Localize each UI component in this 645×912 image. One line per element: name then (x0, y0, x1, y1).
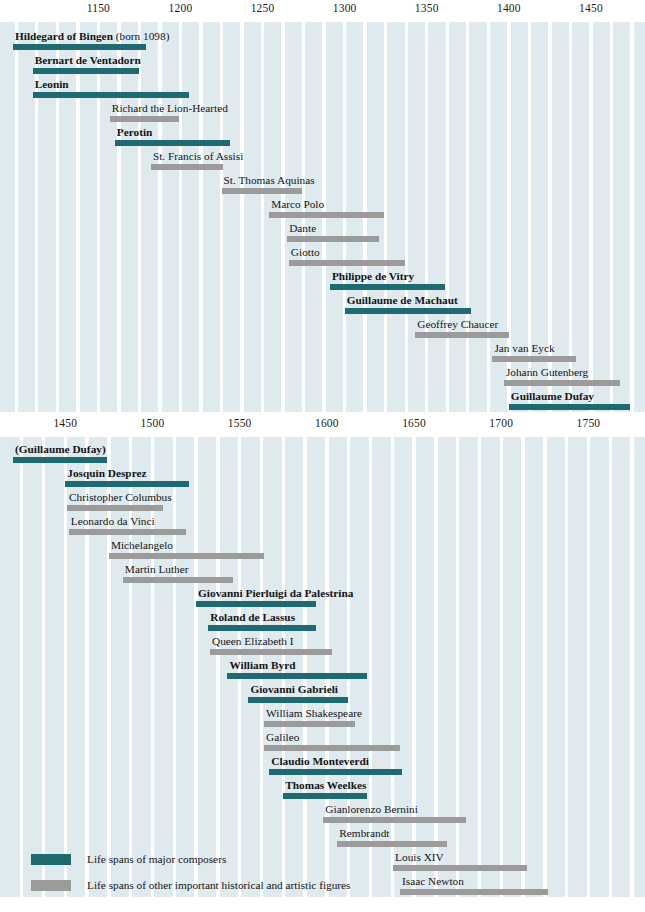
timeline-row-label: Christopher Columbus (69, 491, 172, 504)
timeline-row-label: Perotin (117, 126, 153, 139)
timeline-row[interactable]: Louis XIV (0, 851, 645, 875)
timeline-bar-figure[interactable] (110, 116, 179, 122)
axis-panel-1: 1150120012501300135014001450 (0, 0, 645, 22)
timeline-row[interactable]: Perotin (0, 126, 645, 150)
timeline-bar-figure[interactable] (337, 841, 447, 847)
timeline-bar-composer[interactable] (65, 481, 189, 487)
timeline-row[interactable]: Roland de Lassus (0, 611, 645, 635)
timeline-row[interactable]: Dante (0, 222, 645, 246)
timeline-row-label: Louis XIV (395, 851, 444, 864)
timeline-row-label: Bernart de Ventadorn (35, 54, 141, 67)
timeline-bar-composer[interactable] (345, 308, 471, 314)
timeline-bar-composer[interactable] (13, 44, 146, 50)
timeline-bar-figure[interactable] (415, 332, 509, 338)
timeline-bar-figure[interactable] (264, 721, 355, 727)
timeline-bar-figure[interactable] (492, 356, 576, 362)
timeline-row[interactable]: Thomas Weelkes (0, 779, 645, 803)
timeline-bar-composer[interactable] (248, 697, 347, 703)
timeline-bar-figure[interactable] (67, 505, 163, 511)
timeline-bar-figure[interactable] (222, 188, 302, 194)
timeline-bar-figure[interactable] (289, 260, 406, 266)
timeline-row[interactable]: Michelangelo (0, 539, 645, 563)
timeline-row-label: St. Thomas Aquinas (224, 174, 315, 187)
timeline-row[interactable]: Bernart de Ventadorn (0, 54, 645, 78)
timeline-row[interactable]: Marco Polo (0, 198, 645, 222)
timeline-row-label: Jan van Eyck (494, 342, 554, 355)
timeline-row[interactable]: Leonardo da Vinci (0, 515, 645, 539)
timeline-bar-composer[interactable] (227, 673, 366, 679)
timeline-row-label: Claudio Monteverdi (271, 755, 369, 768)
timeline-row[interactable]: Richard the Lion-Hearted (0, 102, 645, 126)
timeline-row[interactable]: Leonin (0, 78, 645, 102)
timeline-bar-composer[interactable] (509, 404, 631, 410)
timeline-bar-figure[interactable] (504, 380, 621, 386)
axis-tick-label: 1450 (579, 2, 603, 14)
timeline-bar-composer[interactable] (33, 68, 140, 74)
timeline-row-label: Isaac Newton (402, 875, 464, 888)
timeline-bar-composer[interactable] (330, 284, 445, 290)
timeline-row-label: Queen Elizabeth I (212, 635, 294, 648)
timeline-row[interactable]: Johann Gutenberg (0, 366, 645, 390)
timeline-bar-figure[interactable] (400, 889, 548, 895)
timeline-bar-composer[interactable] (208, 625, 316, 631)
timeline-row[interactable]: Giotto (0, 246, 645, 270)
timeline-bar-figure[interactable] (393, 865, 527, 871)
timeline-bar-figure[interactable] (269, 212, 384, 218)
timeline-row-label: Giotto (291, 246, 320, 259)
axis-tick-label: 1450 (53, 417, 77, 429)
timeline-bar-figure[interactable] (264, 745, 400, 751)
timeline-row[interactable]: Christopher Columbus (0, 491, 645, 515)
timeline-bar-figure[interactable] (210, 649, 332, 655)
timeline-row-label: Giovanni Gabrieli (250, 683, 338, 696)
timeline-row-label: William Byrd (229, 659, 295, 672)
timeline-row[interactable]: St. Thomas Aquinas (0, 174, 645, 198)
timeline-bar-figure[interactable] (109, 553, 264, 559)
timeline-row[interactable]: William Shakespeare (0, 707, 645, 731)
timeline-bar-composer[interactable] (196, 601, 316, 607)
timeline-bar-figure[interactable] (123, 577, 233, 583)
timeline-row[interactable]: Josquin Desprez (0, 467, 645, 491)
axis-tick-label: 1600 (315, 417, 339, 429)
timeline-row[interactable]: Gianlorenzo Bernini (0, 803, 645, 827)
timeline-row-label: Geoffrey Chaucer (417, 318, 498, 331)
timeline-bar-composer[interactable] (283, 793, 367, 799)
timeline-bar-figure[interactable] (151, 164, 223, 170)
timeline-row[interactable]: St. Francis of Assisi (0, 150, 645, 174)
timeline-row-label: Hildegard of Bingen (born 1098) (15, 30, 169, 43)
timeline-row[interactable]: Claudio Monteverdi (0, 755, 645, 779)
timeline-row-label: Galileo (266, 731, 299, 744)
timeline-bar-composer[interactable] (269, 769, 402, 775)
timeline-row[interactable]: Martin Luther (0, 563, 645, 587)
timeline-row[interactable]: Giovanni Pierluigi da Palestrina (0, 587, 645, 611)
timeline-panel-2: 1450150015501600165017001750 Life spans … (0, 415, 645, 912)
axis-panel-2: 1450150015501600165017001750 (0, 415, 645, 437)
timeline-row[interactable]: Geoffrey Chaucer (0, 318, 645, 342)
timeline-row[interactable]: Isaac Newton (0, 875, 645, 897)
plot-area-panel-1: Hildegard of Bingen (born 1098)Bernart d… (0, 22, 645, 412)
timeline-bar-figure[interactable] (69, 529, 186, 535)
timeline-row[interactable]: Jan van Eyck (0, 342, 645, 366)
timeline-row[interactable]: Rembrandt (0, 827, 645, 851)
timeline-row-label: William Shakespeare (266, 707, 362, 720)
axis-tick-label: 1300 (333, 2, 357, 14)
timeline-row-label: Rembrandt (339, 827, 389, 840)
timeline-bar-composer[interactable] (13, 457, 107, 463)
timeline-bar-figure[interactable] (323, 817, 466, 823)
timeline-row[interactable]: Queen Elizabeth I (0, 635, 645, 659)
timeline-row[interactable]: William Byrd (0, 659, 645, 683)
timeline-bar-composer[interactable] (115, 140, 230, 146)
timeline-row[interactable]: Galileo (0, 731, 645, 755)
timeline-row-label: Guillaume Dufay (511, 390, 594, 403)
timeline-row[interactable]: (Guillaume Dufay) (0, 443, 645, 467)
axis-tick-label: 1400 (497, 2, 521, 14)
timeline-row[interactable]: Philippe de Vitry (0, 270, 645, 294)
plot-area-panel-2: Life spans of major composersLife spans … (0, 437, 645, 897)
timeline-bar-figure[interactable] (287, 236, 379, 242)
timeline-row[interactable]: Hildegard of Bingen (born 1098) (0, 30, 645, 54)
timeline-row-label: Gianlorenzo Bernini (325, 803, 418, 816)
timeline-bar-composer[interactable] (33, 92, 189, 98)
timeline-row[interactable]: Guillaume de Machaut (0, 294, 645, 318)
timeline-row[interactable]: Guillaume Dufay (0, 390, 645, 412)
timeline-page: 1150120012501300135014001450 Hildegard o… (0, 0, 645, 912)
timeline-row[interactable]: Giovanni Gabrieli (0, 683, 645, 707)
